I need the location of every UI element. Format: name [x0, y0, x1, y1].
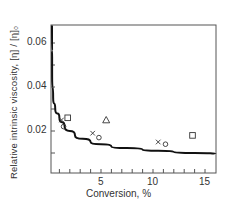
y-tick-label: 0.04	[27, 80, 46, 91]
x-tick-label: 15	[199, 176, 210, 187]
x-tick-label: 5	[98, 176, 104, 187]
plot-area	[0, 0, 226, 211]
square-marker	[190, 133, 196, 139]
x-marker	[156, 140, 161, 145]
y-tick-label: 0.06	[27, 36, 46, 47]
circle-marker	[163, 142, 168, 147]
data-markers	[59, 115, 195, 147]
x-axis-label: Conversion, %	[86, 188, 151, 199]
triangle-marker	[103, 117, 110, 123]
fitted-curve	[52, 25, 215, 154]
x-axis-ticks	[59, 169, 205, 173]
plot-frame	[51, 25, 216, 173]
chart: 0.020.040.06 51015 Relative intrinsic vi…	[0, 0, 226, 211]
circle-marker	[97, 135, 102, 140]
x-marker	[90, 131, 95, 136]
y-axis-label: Relative intrinsic viscosity, [η] / [η]₀	[8, 29, 22, 179]
x-tick-label: 10	[147, 176, 158, 187]
y-tick-label: 0.02	[27, 124, 46, 135]
square-marker	[65, 115, 71, 121]
